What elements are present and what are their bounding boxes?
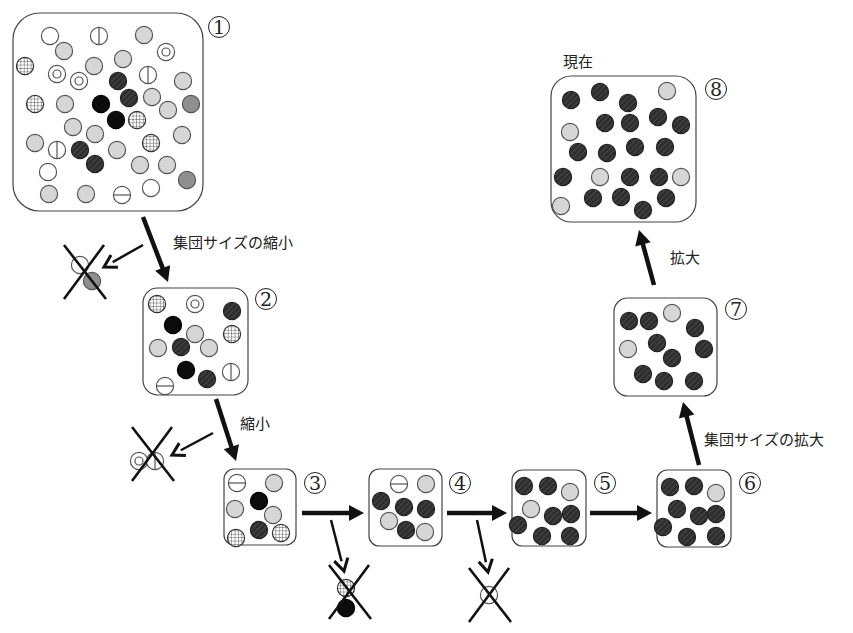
grid-circle-icon <box>227 529 244 546</box>
white-circle-icon <box>41 27 58 44</box>
light-circle-icon <box>264 506 281 523</box>
hatched-circle-icon <box>621 114 638 131</box>
stage-4-population <box>369 469 442 546</box>
hatched-circle-icon <box>650 168 667 185</box>
hatched-circle-icon <box>515 477 532 494</box>
stage-number-7: 7 <box>725 298 747 320</box>
black-circle-icon <box>107 111 124 128</box>
stage-7-population <box>614 298 717 396</box>
light-circle-icon <box>77 185 94 202</box>
hatched-circle-icon <box>562 91 579 108</box>
light-circle-icon <box>55 42 72 59</box>
hatched-circle-icon <box>649 108 666 125</box>
hatched-circle-icon <box>554 168 571 185</box>
removed-group-3 <box>329 565 371 619</box>
hatched-circle-icon <box>598 144 615 161</box>
vbar-circle-icon <box>48 141 65 158</box>
light-circle-icon <box>663 304 680 321</box>
hatched-circle-icon <box>250 521 267 538</box>
arrow-icon <box>477 520 492 572</box>
hatched-circle-icon <box>685 372 702 389</box>
hatched-circle-icon <box>685 477 702 494</box>
vbar-circle-icon <box>222 363 239 380</box>
hatched-circle-icon <box>657 189 674 206</box>
light-circle-icon <box>135 26 152 43</box>
grid-circle-icon <box>142 134 159 151</box>
removed-group-2 <box>130 427 174 481</box>
light-circle-icon <box>174 72 191 89</box>
grid-circle-icon <box>16 57 33 74</box>
light-circle-icon <box>265 474 282 491</box>
light-circle-icon <box>561 483 578 500</box>
light-circle-icon <box>86 125 103 142</box>
stage-3-population <box>224 469 296 547</box>
hatched-circle-icon <box>626 138 643 155</box>
arrow-icon <box>104 245 143 267</box>
vbar-circle-icon <box>90 27 107 44</box>
hatched-circle-icon <box>690 507 707 524</box>
hatched-circle-icon <box>596 114 613 131</box>
hatched-circle-icon <box>619 94 636 111</box>
label-expand-population: 集団サイズの拡大 <box>704 428 824 449</box>
light-circle-icon <box>707 484 724 501</box>
hatched-circle-icon <box>672 116 689 133</box>
stage-number-8: 8 <box>705 78 727 100</box>
label-shrink: 縮小 <box>240 412 270 433</box>
stage-number-6: 6 <box>739 472 761 494</box>
stage-5-population <box>509 470 586 546</box>
hatched-circle-icon <box>86 155 103 172</box>
stage-number-5: 5 <box>594 472 616 494</box>
light-circle-icon <box>131 156 148 173</box>
hatched-circle-icon <box>686 319 703 336</box>
light-circle-icon <box>85 57 102 74</box>
light-circle-icon <box>200 339 217 356</box>
stage-number-3: 3 <box>304 472 326 494</box>
white-circle-icon <box>142 179 159 196</box>
hatched-circle-icon <box>562 505 579 522</box>
light-circle-icon <box>672 168 689 185</box>
arrow-icon <box>447 505 507 521</box>
double-circle-icon <box>48 65 65 82</box>
hatched-circle-icon <box>661 478 678 495</box>
black-circle-icon <box>337 599 354 616</box>
hatched-circle-icon <box>397 521 414 538</box>
arrow-icon <box>172 433 213 455</box>
stage-2-population <box>143 288 248 395</box>
hatched-circle-icon <box>417 500 434 517</box>
black-circle-icon <box>164 316 181 333</box>
stage-number-1: 1 <box>208 16 230 38</box>
hatched-circle-icon <box>612 188 629 205</box>
light-circle-icon <box>26 134 43 151</box>
light-circle-icon <box>591 168 608 185</box>
hatched-circle-icon <box>678 528 695 545</box>
double-circle-icon <box>186 295 203 312</box>
arrow-icon <box>216 399 239 461</box>
light-circle-icon <box>380 512 397 529</box>
hatched-circle-icon <box>648 334 665 351</box>
stage-number-4: 4 <box>449 472 471 494</box>
light-circle-icon <box>149 339 166 356</box>
hatched-circle-icon <box>223 302 240 319</box>
light-circle-icon <box>416 523 433 540</box>
stage-1-population <box>13 13 203 211</box>
light-circle-icon <box>158 156 175 173</box>
stage-8-population <box>551 76 696 222</box>
hatched-circle-icon <box>395 498 412 515</box>
stage-number-2: 2 <box>255 288 277 310</box>
light-circle-icon <box>417 475 434 492</box>
hbar-circle-icon <box>228 474 245 491</box>
hatched-circle-icon <box>533 527 550 544</box>
hatched-circle-icon <box>640 312 657 329</box>
hatched-circle-icon <box>539 477 556 494</box>
hatched-circle-icon <box>620 312 637 329</box>
light-circle-icon <box>64 118 81 135</box>
grid-circle-icon <box>128 111 145 128</box>
grid-circle-icon <box>26 95 43 112</box>
hatched-circle-icon <box>120 89 137 106</box>
hatched-circle-icon <box>634 201 651 218</box>
mid-circle-icon <box>182 95 199 112</box>
arrow-icon <box>143 217 170 282</box>
hatched-circle-icon <box>584 189 601 206</box>
hatched-circle-icon <box>707 505 724 522</box>
hatched-circle-icon <box>655 372 672 389</box>
